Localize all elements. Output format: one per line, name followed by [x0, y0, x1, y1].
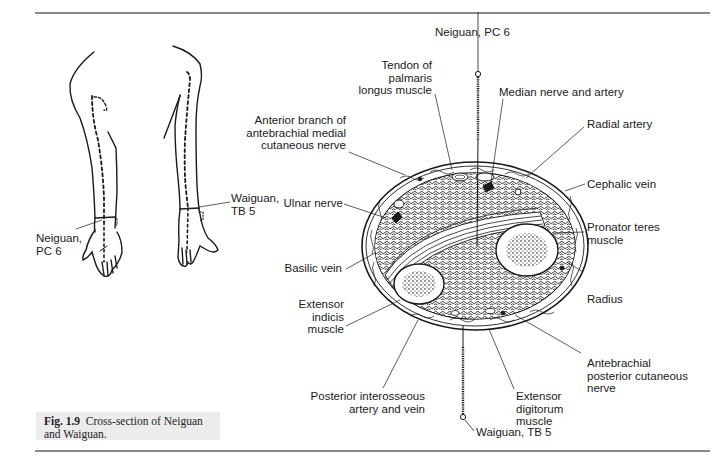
figure-caption: Fig. 1.9 Cross-section of Neiguan and Wa… [36, 412, 220, 440]
neiguan-leader-line [76, 220, 102, 229]
label-posterior-interosseous: Posterior interosseous artery and vein [311, 390, 425, 415]
label-neiguan-arm: Neiguan, PC 6 [36, 232, 82, 257]
caption-line-2: and Waiguan. [44, 428, 107, 440]
label-ulnar-nerve: Ulnar nerve [284, 197, 343, 210]
waiguan-leader-line [199, 202, 230, 207]
figure-number: Fig. 1.9 [44, 415, 80, 427]
label-extensor-digitorum: Extensor digitorum muscle [516, 390, 563, 428]
label-extensor-indicis: Extensor indicis muscle [299, 298, 344, 336]
label-pronator-teres: Pronator teres muscle [587, 221, 660, 246]
label-anterior-branch: Anterior branch of antebrachial medial c… [246, 114, 346, 152]
label-needle-waiguan: Waiguan, TB 5 [476, 426, 551, 439]
label-cephalic-vein: Cephalic vein [587, 178, 656, 191]
label-median-nerve: Median nerve and artery [499, 86, 624, 99]
label-basilic-vein: Basilic vein [284, 262, 342, 275]
forearm-cross-section [362, 162, 588, 330]
caption-line-1: Cross-section of Neiguan [86, 415, 203, 427]
label-antebrachial-posterior: Antebrachial posterior cutaneous nerve [587, 357, 688, 395]
label-needle-neiguan: Neiguan, PC 6 [435, 26, 510, 39]
label-radial-artery: Radial artery [587, 118, 652, 131]
label-waiguan-arm: Waiguan, TB 5 [231, 192, 279, 217]
label-radius: Radius [587, 293, 623, 306]
waiguan-needle [460, 326, 474, 431]
right-arm-drawing [164, 46, 218, 267]
label-tendon-palmaris: Tendon of palmaris longus muscle [358, 59, 432, 97]
